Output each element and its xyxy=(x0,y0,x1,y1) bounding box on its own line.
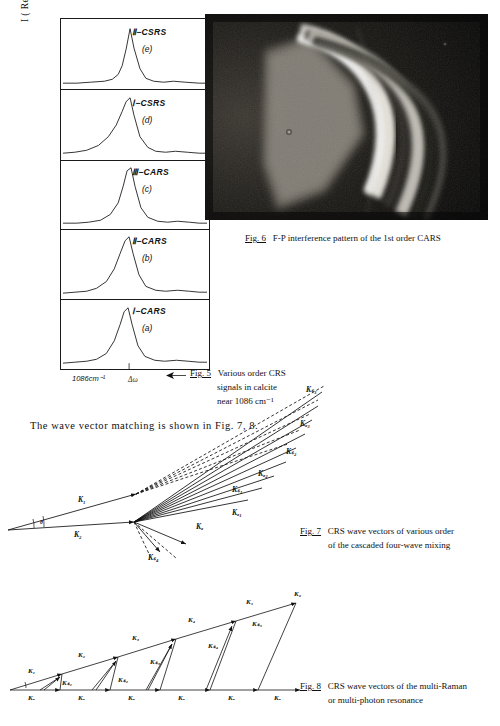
spectrum-label-c: Ⅲ−CARS xyxy=(132,167,169,177)
fig7-caption-line1: CRS wave vectors of various order xyxy=(328,526,454,536)
spectrum-panelid-b: (b) xyxy=(142,253,152,263)
fig7-vector-Ka: Kₐ xyxy=(195,522,204,531)
paper-page: I ( Relative Intensity) Ⅱ−CSRS (e) Ⅰ−CSR… xyxy=(0,0,500,726)
fig7-vector-K2: K₂ xyxy=(73,530,82,539)
fig8-caption: Fig. 8 CRS wave vectors of the multi-Ram… xyxy=(300,679,500,707)
spectrum-panelid-e: (e) xyxy=(142,44,152,54)
fig8-vector-bottom-6: Kₐ xyxy=(273,694,281,702)
fig7-vector-Ks3: Kₛ₃ xyxy=(305,385,317,394)
fig5-y-axis: I ( Relative Intensity) xyxy=(0,0,30,360)
spectrum-panelid-d: (d) xyxy=(142,115,152,125)
fig8-vector-top-5: K₅ xyxy=(245,598,254,606)
fig7-vector-Ks4: Kₛ₄ xyxy=(147,553,159,562)
fig7-vector-Ka1: Kₐ₁ xyxy=(231,508,242,517)
spectrum-panelid-a: (a) xyxy=(142,323,152,333)
spectrum-label-d: Ⅰ−CSRS xyxy=(132,98,165,108)
fig7-angle-label: θ xyxy=(40,519,43,525)
fig6-caption: Fig. 6 F-P interference pattern of the 1… xyxy=(245,233,495,243)
spectrum-label-e: Ⅱ−CSRS xyxy=(132,27,166,37)
y-axis-label: I ( Relative Intensity) xyxy=(20,0,30,22)
fig8-vector-bottom-5: Kₐ xyxy=(227,694,235,702)
fig8-vector-bottom-4: Kₐ xyxy=(177,694,185,702)
fig8-caption-line1: CRS wave vectors of the multi-Raman xyxy=(328,681,467,691)
fig7-wave-vector-diagram: θ K₂ K₁ Kₐ Kₐ₁ Kₛ₁ Kₐ₂ Kₛ₂ Kₐ₃ Kₛ₃ Kₛ₄ xyxy=(0,372,330,562)
fig8-vector-top-1: K₁ xyxy=(27,667,35,675)
fig5-spectra-panel: Ⅱ−CSRS (e) Ⅰ−CSRS (d) Ⅲ−CARS (c) Ⅱ−CARS … xyxy=(60,18,210,370)
fp-fringe-pattern xyxy=(205,14,488,220)
fig6-fp-interference-photo xyxy=(205,14,488,220)
fig8-vector-svg: K₁ K₂ K₃ K₄ K₅ K₆ Kₐ Kₐ Kₐ Kₐ Kₐ Kₐ Kₛ₁ … xyxy=(0,578,330,703)
fig7-vector-Ka2: Kₐ₂ xyxy=(257,469,268,478)
fig8-vector-bottom-3: Kₐ xyxy=(127,694,135,702)
fig8-vector-diag-3: Kₛ₃ xyxy=(149,658,161,666)
fig8-vector-diag-5: Kₛ₅ xyxy=(251,620,263,628)
fig7-vector-Ks1: Kₛ₁ xyxy=(231,485,243,494)
fig8-caption-tag: Fig. 8 xyxy=(300,681,321,691)
fig7-vector-Ka3: Kₐ₃ xyxy=(299,419,310,428)
spectrum-label-b: Ⅱ−CARS xyxy=(132,236,167,246)
fig6-caption-text: F-P interference pattern of the 1st orde… xyxy=(273,233,441,243)
spectrum-label-a: Ⅰ−CARS xyxy=(132,306,166,316)
fig7-vector-Ks2: Kₛ₂ xyxy=(285,447,297,456)
fig8-vector-top-6: K₆ xyxy=(293,590,302,598)
fig7-caption-tag: Fig. 7 xyxy=(300,526,321,536)
fig6-caption-tag: Fig. 6 xyxy=(245,233,266,243)
fig7-vector-K1: K₁ xyxy=(77,495,86,504)
spectrum-panelid-c: (c) xyxy=(142,184,152,194)
fig7-caption-line2: of the cascaded four-wave mixing xyxy=(300,538,500,552)
fig8-vector-top-2: K₂ xyxy=(77,651,86,659)
fig8-vector-top-4: K₄ xyxy=(187,616,196,624)
fig8-vector-bottom-1: Kₐ xyxy=(27,694,35,702)
fig8-vector-bottom-2: Kₐ xyxy=(77,694,85,702)
fig8-vector-diag-4: Kₛ₄ xyxy=(207,642,219,650)
fig8-vector-diag-1: Kₛ₁ xyxy=(61,679,72,687)
fig8-vector-top-3: K₃ xyxy=(131,634,140,642)
fig8-wave-vector-diagram: K₁ K₂ K₃ K₄ K₅ K₆ Kₐ Kₐ Kₐ Kₐ Kₐ Kₐ Kₛ₁ … xyxy=(0,578,330,703)
fig7-vector-labels: θ K₂ K₁ Kₐ Kₐ₁ Kₛ₁ Kₐ₂ Kₛ₂ Kₐ₃ Kₛ₃ Kₛ₄ xyxy=(40,385,317,562)
fig7-vector-svg: θ K₂ K₁ Kₐ Kₐ₁ Kₛ₁ Kₐ₂ Kₛ₂ Kₐ₃ Kₛ₃ Kₛ₄ xyxy=(0,372,330,562)
fig8-caption-line2: or multi-photon resonance xyxy=(300,693,500,707)
fig7-caption: Fig. 7 CRS wave vectors of various order… xyxy=(300,524,500,552)
fig8-vector-diag-2: Kₛ₂ xyxy=(117,676,129,684)
